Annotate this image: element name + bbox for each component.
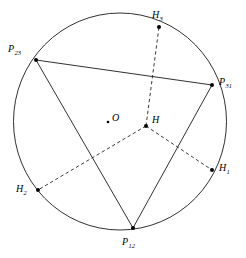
label-base: H — [152, 114, 159, 125]
label-subscript: 3 — [160, 15, 163, 22]
label-base: O — [112, 112, 119, 123]
label-subscript: 2 — [24, 189, 27, 196]
point-marker-p12 — [131, 226, 135, 230]
circumcircle — [14, 13, 227, 230]
point-marker-p23 — [34, 58, 38, 62]
altitude-H-to-H3 — [146, 27, 159, 126]
point-label-p23: P23 — [8, 44, 21, 54]
label-base: H — [219, 162, 226, 173]
point-label-p31: P31 — [219, 77, 232, 87]
point-marker-h — [144, 124, 148, 128]
point-marker-h2 — [36, 188, 40, 192]
point-label-p12: P12 — [122, 237, 135, 247]
label-subscript: 12 — [128, 242, 135, 249]
label-base: H — [152, 9, 159, 20]
side-P31-P12 — [133, 85, 212, 228]
label-base: H — [16, 183, 23, 194]
point-label-h2: H2 — [16, 184, 26, 194]
circle-layer — [14, 13, 227, 230]
altitude-H-to-H2 — [38, 126, 146, 190]
point-label-h3: H3 — [152, 10, 162, 20]
label-subscript: 1 — [227, 168, 230, 175]
label-subscript: 23 — [14, 49, 21, 56]
geometry-canvas — [0, 0, 246, 258]
side-P23-P12 — [36, 60, 133, 228]
point-marker-h3 — [157, 25, 161, 29]
point-marker-h1 — [210, 168, 214, 172]
point-marker-p31 — [210, 83, 214, 87]
side-P23-P31 — [36, 60, 212, 85]
label-subscript: 31 — [225, 82, 232, 89]
point-label-h: H — [152, 115, 159, 125]
solid-segments-layer — [36, 60, 212, 228]
point-label-h1: H1 — [219, 163, 229, 173]
points-layer — [34, 25, 214, 230]
point-marker-o — [107, 121, 110, 124]
geometry-figure: P23P31P12H3H1H2OH — [0, 0, 246, 258]
point-label-o: O — [112, 113, 119, 123]
altitude-H-to-H1 — [146, 126, 212, 170]
